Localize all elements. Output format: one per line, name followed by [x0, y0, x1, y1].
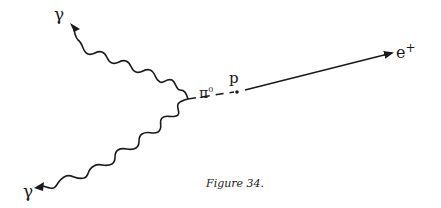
positron-label: e+	[396, 42, 416, 61]
proton-dot	[235, 90, 239, 94]
upper-photon-wavy-line	[74, 28, 188, 99]
positron-line	[245, 53, 392, 90]
pion-charge: 0	[208, 85, 213, 94]
lower-photon-arrowhead	[34, 182, 44, 191]
lower-photon-wavy-line	[42, 99, 188, 188]
pion-symbol: π	[199, 85, 208, 101]
gamma-lower-label: γ	[23, 183, 33, 200]
upper-photon-arrowhead	[70, 23, 80, 32]
pion-label: π0	[199, 86, 213, 100]
figure-caption: Figure 34.	[206, 177, 264, 190]
proton-label: p	[229, 71, 239, 86]
positron-charge: +	[405, 41, 415, 55]
gamma-upper-label: γ	[54, 6, 64, 23]
